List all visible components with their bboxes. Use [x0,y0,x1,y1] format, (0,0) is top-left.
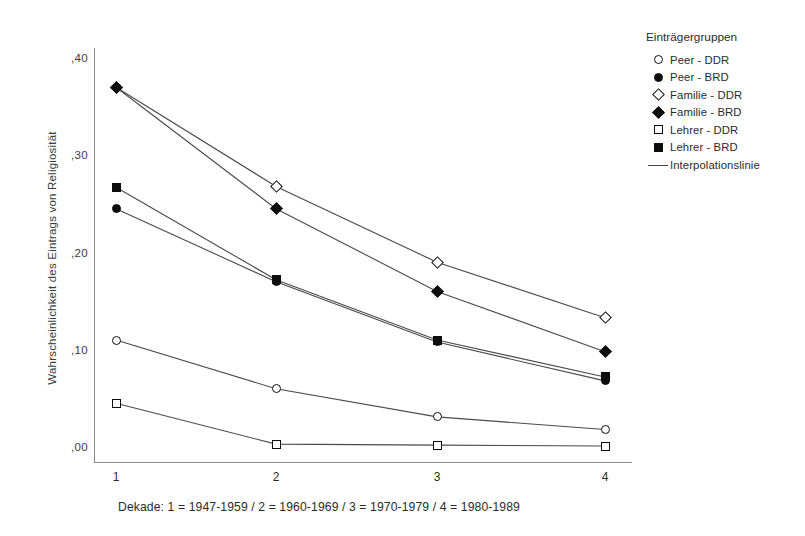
y-axis-tick-labels: ,40,30,20,10,00 [38,0,88,536]
legend-label: Peer - DDR [670,54,729,66]
plot-area [94,48,632,463]
open-diamond-marker-icon [652,88,665,101]
chart-figure: Wahrscheinlichkeit des Eintrags von Reli… [0,0,805,536]
legend-entry[interactable]: Lehrer - DDR [646,121,801,139]
filled-square-marker-icon [654,143,663,152]
legend-label: Familie - BRD [670,106,742,118]
filled-square-marker-icon [433,336,442,345]
y-tick-label: ,40 [42,52,88,64]
y-tick-label: ,30 [42,149,88,161]
series-line [116,87,605,318]
series-line [116,87,605,352]
filled-circle-marker-icon [112,204,121,213]
legend-entry[interactable]: Lehrer - BRD [646,139,801,157]
legend-key [646,139,670,156]
legend-label: Interpolationslinie [670,159,760,171]
open-square-marker-icon [112,399,121,408]
legend-label: Familie - DDR [670,89,742,101]
legend-key [646,121,670,138]
legend-entries: Peer - DDRPeer - BRDFamilie - DDRFamilie… [646,51,801,174]
legend-key [646,104,670,121]
open-circle-marker-icon [433,412,442,421]
legend-key [646,86,670,103]
legend-entry[interactable]: Peer - DDR [646,51,801,69]
y-tick-label: ,20 [42,247,88,259]
series-line [116,187,605,377]
y-tick-label: ,00 [42,441,88,453]
filled-circle-marker-icon [654,73,663,82]
legend-entry[interactable]: Interpolationslinie [646,156,801,174]
legend-key [646,69,670,86]
series-line [116,403,605,446]
x-axis-caption: Dekade: 1 = 1947-1959 / 2 = 1960-1969 / … [118,500,520,514]
chart-legend: Einträgergruppen Peer - DDRPeer - BRDFam… [646,30,801,174]
y-tick-label: ,10 [42,344,88,356]
open-square-marker-icon [433,441,442,450]
legend-label: Lehrer - DDR [670,124,738,136]
legend-entry[interactable]: Familie - BRD [646,104,801,122]
filled-square-marker-icon [112,183,121,192]
open-circle-marker-icon [272,384,281,393]
legend-entry[interactable]: Familie - DDR [646,86,801,104]
series-lines [94,48,632,463]
open-circle-marker-icon [112,336,121,345]
legend-key [646,156,670,173]
legend-label: Peer - BRD [670,71,729,83]
legend-key [646,51,670,68]
interpolation-line-icon [648,165,668,166]
open-circle-marker-icon [654,55,663,64]
x-tick-label: 2 [256,470,296,484]
filled-square-marker-icon [601,372,610,381]
series-line [116,209,605,381]
x-tick-label: 4 [585,470,625,484]
x-tick-label: 1 [96,470,136,484]
legend-entry[interactable]: Peer - BRD [646,69,801,87]
filled-square-marker-icon [272,275,281,284]
legend-title: Einträgergruppen [646,30,801,44]
open-square-marker-icon [654,125,663,134]
open-circle-marker-icon [601,425,610,434]
open-square-marker-icon [272,440,281,449]
x-tick-label: 3 [417,470,457,484]
legend-label: Lehrer - BRD [670,141,738,153]
series-line [116,340,605,430]
open-square-marker-icon [601,442,610,451]
filled-diamond-marker-icon [652,106,665,119]
